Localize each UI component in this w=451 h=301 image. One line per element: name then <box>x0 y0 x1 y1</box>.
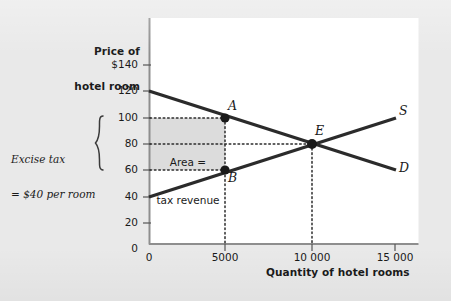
x-axis-ticks <box>225 244 395 251</box>
y-tick-label-100: 100 <box>96 112 138 124</box>
y-axis-title-line1: Price of <box>72 46 140 58</box>
data-point-a <box>220 113 229 122</box>
excise-tax-line1: Excise tax <box>11 154 97 166</box>
x-tick-label-5000: 5000 <box>201 252 249 264</box>
y-tick-label-40: 40 <box>96 191 138 203</box>
excise-tax-annotation: Excise tax = $40 per room <box>11 130 97 224</box>
tax-revenue-label: Area = tax revenue <box>150 131 226 232</box>
x-tick-label-10000: 10 000 <box>286 252 338 264</box>
supply-curve-label: S <box>399 104 408 118</box>
demand-curve-label: D <box>399 161 409 175</box>
y-tick-label-140: $140 <box>96 59 138 71</box>
data-point-e <box>307 139 317 149</box>
x-tick-label-0: 0 <box>129 252 169 264</box>
excise-tax-line2: = $40 per room <box>11 189 97 201</box>
point-label-e: E <box>315 124 324 138</box>
point-label-a: A <box>228 99 237 113</box>
excise-tax-supply-demand-figure: Price of hotel room $140 120 100 80 60 4… <box>0 0 451 301</box>
point-label-b: B <box>228 171 237 185</box>
y-tick-label-60: 60 <box>96 164 138 176</box>
x-axis-title: Quantity of hotel rooms <box>266 267 418 279</box>
y-tick-label-120: 120 <box>96 85 138 97</box>
y-tick-label-80: 80 <box>96 138 138 150</box>
y-tick-label-20: 20 <box>96 217 138 229</box>
tax-revenue-line1: Area = <box>150 156 226 169</box>
tax-revenue-line2: tax revenue <box>150 194 226 207</box>
x-tick-label-15000: 15 000 <box>369 252 421 264</box>
